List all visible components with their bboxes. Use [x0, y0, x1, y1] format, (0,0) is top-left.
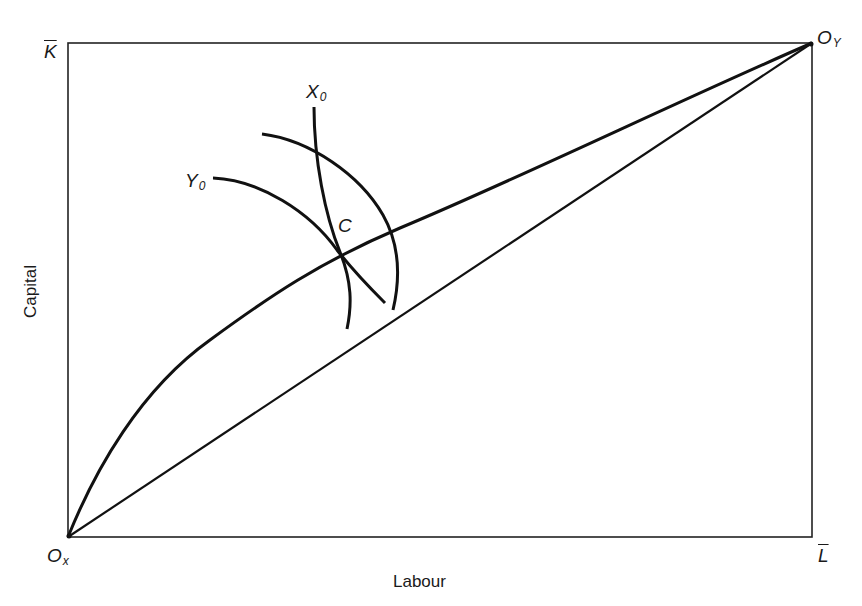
oy-sub: Y: [833, 36, 841, 50]
k-bar-text: K: [44, 41, 57, 62]
edgeworth-box-diagram: [0, 0, 862, 606]
ox-sub: x: [63, 554, 69, 568]
label-x0: X0: [306, 82, 326, 103]
label-l-bar: L: [818, 546, 829, 565]
diagonal-line: [68, 43, 812, 537]
x0-sub: 0: [320, 90, 327, 104]
y-axis-title: Capital: [22, 265, 39, 318]
isoquant-y0: [213, 178, 385, 303]
label-k-bar: K: [44, 42, 57, 61]
label-y0: Y0: [185, 171, 205, 192]
origin-y-point: [809, 42, 814, 47]
x-axis-title: Labour: [393, 573, 446, 590]
origin-x-point: [67, 534, 72, 539]
label-ox: Ox: [47, 546, 69, 567]
y0-sub: 0: [199, 179, 206, 193]
x0-main: X: [306, 81, 319, 102]
y0-main: Y: [185, 170, 198, 191]
label-point-c: C: [338, 216, 352, 235]
ox-main: O: [47, 545, 62, 566]
oy-main: O: [817, 27, 832, 48]
label-oy: OY: [817, 28, 841, 49]
l-bar-text: L: [818, 545, 829, 566]
